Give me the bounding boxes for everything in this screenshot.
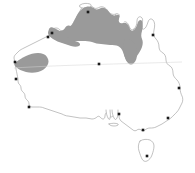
marker-carnarvon [15,78,18,81]
marker-alice-springs [98,63,101,66]
marker-hobart [146,155,149,158]
marker-derby [51,32,54,35]
marker-perth [28,106,31,109]
marker-sydney [167,117,170,120]
marker-cairns [152,34,155,37]
marker-melbourne [142,129,145,132]
marker-broome [47,36,50,39]
marker-darwin [87,11,90,14]
tasmania-outline [138,139,154,161]
marker-exmouth [14,61,17,64]
map-canvas [0,0,195,173]
australia-distribution-map [0,0,195,173]
marker-adelaide [118,113,121,116]
kangaroo-island-outline [109,123,118,126]
marker-brisbane [178,87,181,90]
